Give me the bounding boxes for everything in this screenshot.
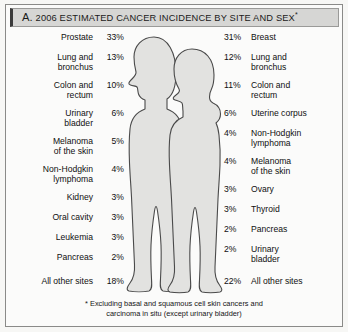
table-row: Leukemia3% (6, 232, 124, 242)
male-percent-value: 6% (93, 108, 124, 129)
male-percent-value: 3% (93, 212, 124, 222)
table-row: Kidney3% (6, 192, 124, 202)
female-percent-value: 12% (224, 52, 251, 73)
female-site-label: Non-Hodgkinlymphoma (251, 128, 342, 149)
footnote-line-1: * Excluding basal and squamous cell skin… (6, 299, 342, 309)
table-row: 31%Breast (224, 32, 342, 42)
page-title: A. 2006 ESTIMATED CANCER INCIDENCE BY SI… (13, 11, 298, 23)
table-row: Prostate33% (6, 32, 124, 42)
female-percent-value: 2% (224, 224, 251, 234)
male-site-label: Kidney (6, 192, 93, 202)
table-row: 3%Ovary (224, 184, 342, 194)
female-site-label: All other sites (251, 276, 342, 286)
female-site-label: Melanomaof the skin (251, 156, 342, 177)
male-percent-value: 13% (93, 52, 124, 73)
female-site-label: Ovary (251, 184, 342, 194)
male-site-label: All other sites (6, 276, 93, 286)
footnote-line-2: carcinoma in situ (except urinary bladde… (6, 309, 342, 319)
male-percent-value: 3% (93, 192, 124, 202)
male-site-label: Oral cavity (6, 212, 93, 222)
male-percent-value: 10% (93, 80, 124, 101)
title-main: 2006 ESTIMATED CANCER INCIDENCE BY SITE … (36, 14, 295, 24)
male-percent-value: 5% (93, 136, 124, 157)
male-site-label: Leukemia (6, 232, 93, 242)
female-percent-value: 11% (224, 80, 251, 101)
female-silhouette (168, 49, 222, 293)
table-row: 4%Non-Hodgkinlymphoma (224, 128, 342, 149)
table-row: 22%All other sites (224, 276, 342, 286)
table-row: 12%Lung andbronchus (224, 52, 342, 73)
table-row: Colon andrectum10% (6, 80, 124, 101)
female-site-label: Breast (251, 32, 342, 42)
table-row: 4%Melanomaof the skin (224, 156, 342, 177)
female-percent-value: 2% (224, 244, 251, 265)
male-percent-value: 33% (93, 32, 124, 42)
female-percent-value: 6% (224, 108, 251, 118)
male-percent-value: 2% (93, 252, 124, 262)
chart-body: Prostate33%Lung andbronchus13%Colon andr… (6, 29, 342, 297)
table-row: Non-Hodgkinlymphoma4% (6, 164, 124, 185)
silhouette-group (124, 29, 224, 297)
table-row: All other sites18% (6, 276, 124, 286)
figure-footnote: * Excluding basal and squamous cell skin… (6, 299, 342, 318)
female-percent-value: 4% (224, 128, 251, 149)
table-row: Oral cavity3% (6, 212, 124, 222)
male-percent-value: 3% (93, 232, 124, 242)
female-percent-value: 3% (224, 184, 251, 194)
female-site-label: Urinarybladder (251, 244, 342, 265)
male-site-label: Non-Hodgkinlymphoma (6, 164, 93, 185)
table-row: Lung andbronchus13% (6, 52, 124, 73)
male-site-label: Colon andrectum (6, 80, 93, 101)
title-letter: A. (22, 12, 33, 24)
female-site-label: Thyroid (251, 204, 342, 214)
male-site-label: Urinarybladder (6, 108, 93, 129)
table-row: 6%Uterine corpus (224, 108, 342, 118)
figure-title-bar: A. 2006 ESTIMATED CANCER INCIDENCE BY SI… (10, 8, 339, 27)
figure-panel: A. 2006 ESTIMATED CANCER INCIDENCE BY SI… (0, 0, 348, 332)
male-site-label: Prostate (6, 32, 93, 42)
female-percent-value: 3% (224, 204, 251, 214)
female-percent-value: 4% (224, 156, 251, 177)
female-site-label: Pancreas (251, 224, 342, 234)
female-percent-value: 22% (224, 276, 251, 286)
title-footnote-marker: * (295, 11, 298, 18)
male-site-label: Lung andbronchus (6, 52, 93, 73)
female-site-label: Colon andrectum (251, 80, 342, 101)
male-percent-value: 18% (93, 276, 124, 286)
female-site-label: Uterine corpus (251, 108, 342, 118)
table-row: Urinarybladder6% (6, 108, 124, 129)
table-row: 11%Colon andrectum (224, 80, 342, 101)
male-site-label: Melanomaof the skin (6, 136, 93, 157)
male-percent-value: 4% (93, 164, 124, 185)
table-row: 2%Pancreas (224, 224, 342, 234)
table-row: Melanomaof the skin5% (6, 136, 124, 157)
female-site-label: Lung andbronchus (251, 52, 342, 73)
male-site-label: Pancreas (6, 252, 93, 262)
table-row: 2%Urinarybladder (224, 244, 342, 265)
female-percent-value: 31% (224, 32, 251, 42)
table-row: 3%Thyroid (224, 204, 342, 214)
table-row: Pancreas2% (6, 252, 124, 262)
